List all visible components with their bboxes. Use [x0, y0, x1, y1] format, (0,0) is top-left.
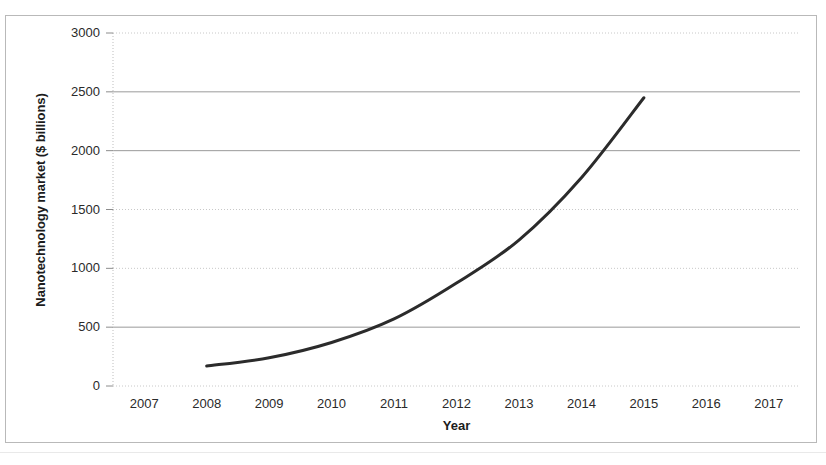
data-series-nanotechnology-market [207, 98, 644, 366]
y-tick-label: 500 [48, 319, 100, 334]
x-tick-label: 2007 [130, 396, 159, 411]
gridlines [113, 33, 800, 386]
chart-screenshot: Nanotechnology market ($ billions) Year … [0, 0, 826, 465]
x-tick-label: 2017 [754, 396, 783, 411]
x-tick-label: 2015 [629, 396, 658, 411]
x-tick-label: 2010 [317, 396, 346, 411]
y-tick-label: 2500 [48, 84, 100, 99]
y-tick-label: 1500 [48, 202, 100, 217]
x-tick-label: 2008 [192, 396, 221, 411]
x-tick-label: 2013 [504, 396, 533, 411]
x-tick-label: 2014 [567, 396, 596, 411]
y-axis-tick-marks [106, 33, 113, 386]
x-tick-label: 2012 [442, 396, 471, 411]
y-tick-label: 3000 [48, 25, 100, 40]
y-tick-label: 2000 [48, 143, 100, 158]
y-tick-label: 1000 [48, 260, 100, 275]
y-tick-label: 0 [48, 378, 100, 393]
x-tick-label: 2009 [255, 396, 284, 411]
x-tick-label: 2011 [380, 396, 408, 411]
x-tick-label: 2016 [692, 396, 721, 411]
x-axis-title: Year [113, 418, 800, 433]
